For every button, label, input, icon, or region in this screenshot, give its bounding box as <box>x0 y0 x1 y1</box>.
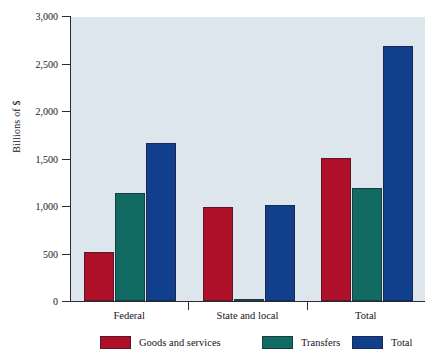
bar <box>146 143 176 301</box>
legend-swatch-icon <box>352 336 383 349</box>
legend-swatch-icon <box>100 336 131 349</box>
bar <box>115 193 145 301</box>
bar <box>265 205 295 301</box>
legend-item[interactable]: Total <box>352 334 412 350</box>
bar <box>383 46 413 301</box>
y-axis-tick-label: 1,500 <box>0 155 58 165</box>
y-axis-tick-label: 2,000 <box>0 107 58 117</box>
bars-layer <box>71 17 425 301</box>
x-axis-category-label: Federal <box>70 310 188 321</box>
chart-legend: Goods and servicesTransfersTotal <box>0 334 443 354</box>
y-axis-tick-label: 3,000 <box>0 12 58 22</box>
y-axis-tick-label: 0 <box>0 297 58 307</box>
legend-item[interactable]: Transfers <box>262 334 340 350</box>
bar <box>352 188 382 301</box>
bar <box>321 158 351 301</box>
bar <box>234 299 264 301</box>
y-axis-tick-label: 2,500 <box>0 60 58 70</box>
bar <box>203 207 233 301</box>
y-axis-tick-label: 500 <box>0 250 58 260</box>
legend-swatch-icon <box>262 336 293 349</box>
legend-label: Transfers <box>301 337 340 348</box>
x-axis-tick <box>307 302 308 310</box>
plot-area <box>70 17 425 302</box>
legend-label: Total <box>391 337 412 348</box>
x-axis-tick <box>188 302 189 310</box>
y-axis-tick-label: 1,000 <box>0 202 58 212</box>
bar <box>84 252 114 301</box>
x-axis-category-label: State and local <box>188 310 306 321</box>
x-axis-category-label: Total <box>307 310 425 321</box>
legend-item[interactable]: Goods and services <box>100 334 221 350</box>
bar-chart-figure: Billions of $ 05001,0001,5002,0002,5003,… <box>0 0 443 359</box>
legend-label: Goods and services <box>139 337 221 348</box>
